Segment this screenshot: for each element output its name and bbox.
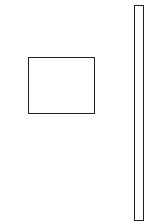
square-box xyxy=(28,57,95,114)
tall-bar xyxy=(134,5,144,221)
diagram-canvas xyxy=(0,0,154,224)
